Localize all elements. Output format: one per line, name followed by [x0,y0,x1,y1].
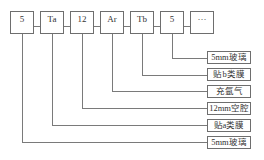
connector-line [34,26,40,27]
leader-line-horizontal [112,91,207,92]
box-cavity-12: 12 [70,11,94,34]
box-film-ta: Ta [40,11,64,34]
connector-line [154,26,160,27]
box-glass-5-outer: 5 [10,11,34,34]
label-5mm-glass-inner: 5mm玻璃 [207,51,251,64]
leader-line-vertical [22,34,23,142]
connector-line [184,26,190,27]
leader-line-vertical [112,34,113,91]
box-glass-5-inner: 5 [160,11,184,34]
leader-line-horizontal [82,108,207,109]
leader-line-horizontal [52,125,207,126]
label-12mm-cavity: 12mm空腔 [207,102,251,115]
label-a-film: 贴a类膜 [207,119,251,132]
leader-line-horizontal [172,58,207,59]
glass-structure-diagram: 5 Ta 12 Ar Tb 5 ··· 5mm玻璃 贴b类膜 充氩气 12mm空… [0,0,264,160]
leader-line-horizontal [142,75,207,76]
leader-line-vertical [82,34,83,108]
box-ellipsis: ··· [190,11,214,34]
leader-line-vertical [52,34,53,125]
connector-line [64,26,70,27]
box-argon: Ar [100,11,124,34]
box-film-tb: Tb [130,11,154,34]
leader-line-vertical [142,34,143,75]
label-5mm-glass-outer: 5mm玻璃 [207,136,251,149]
label-argon-fill: 充氩气 [207,85,251,98]
leader-line-horizontal [22,142,207,143]
connector-line [124,26,130,27]
leader-line-vertical [172,34,173,58]
connector-line [94,26,100,27]
label-b-film: 贴b类膜 [207,68,251,81]
